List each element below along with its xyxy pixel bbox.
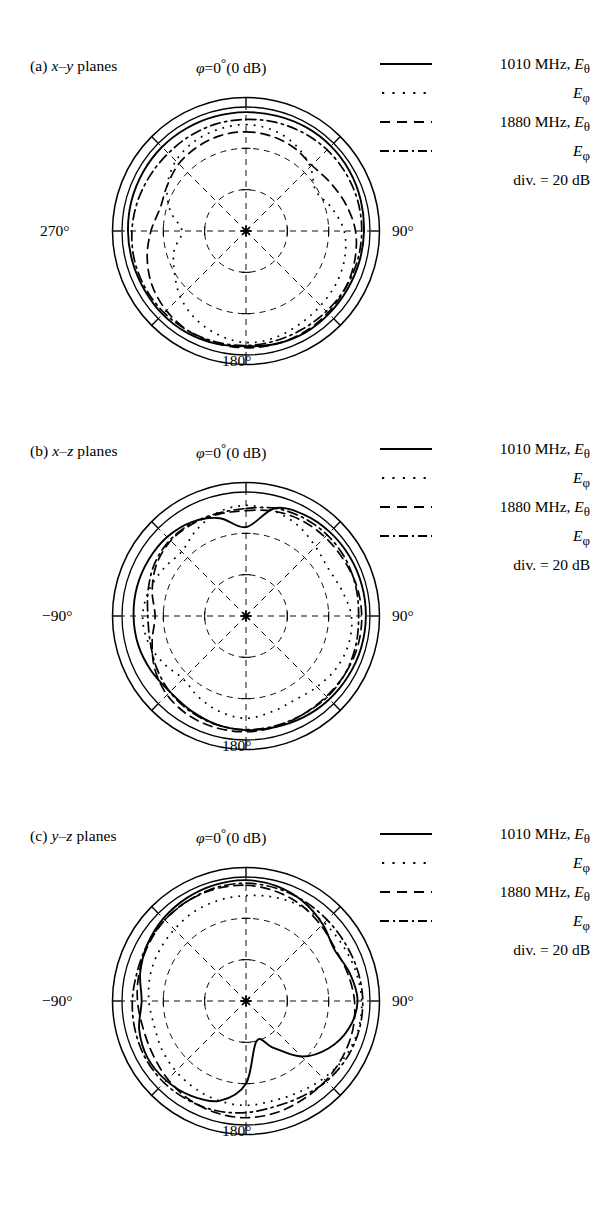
- legend-division-note: div. = 20 dB: [440, 938, 590, 962]
- legend-row-1: Eφ: [378, 466, 592, 490]
- legend-label-3: Eφ: [440, 139, 590, 163]
- outer-tick: [152, 907, 158, 913]
- series-dotted: [143, 505, 352, 718]
- legend-swatch-dotted: [378, 851, 434, 875]
- legend-swatch-solid: [378, 822, 434, 846]
- legend-row-3: Eφ: [378, 524, 592, 548]
- legend-label-1: Eφ: [440, 81, 590, 105]
- outer-tick: [334, 319, 340, 325]
- legend-swatch-dashed: [378, 495, 434, 519]
- legend-swatch-dashed: [378, 880, 434, 904]
- outer-tick: [334, 907, 340, 913]
- plot-geometry: [113, 98, 380, 365]
- legend-division-note: div. = 20 dB: [440, 168, 590, 192]
- legend-swatch-dotted: [378, 81, 434, 105]
- legend-label-3: Eφ: [440, 909, 590, 933]
- plot-geometry: [113, 868, 380, 1135]
- panel-yz-plane: (c) y–z planes φ=0°(0 dB) −90° 90° 180° …: [0, 770, 592, 1155]
- panel-xz-plane: (b) x–z planes φ=0°(0 dB) −90° 90° 180° …: [0, 385, 592, 770]
- legend-swatch-dotted: [378, 466, 434, 490]
- grid-spoke: [158, 528, 246, 616]
- grid-spoke: [158, 1001, 246, 1089]
- outer-tick: [152, 319, 158, 325]
- grid-spoke: [246, 143, 334, 231]
- legend-panel-b: 1010 MHz, Eθ Eφ 1880 MHz, Eθ Eφ div. = 2…: [378, 437, 592, 577]
- legend-label-1: Eφ: [440, 466, 590, 490]
- legend-label-3: Eφ: [440, 524, 590, 548]
- legend-label-0: 1010 MHz, Eθ: [440, 437, 590, 461]
- legend-row-2: 1880 MHz, Eθ: [378, 110, 592, 134]
- outer-tick: [152, 137, 158, 143]
- legend-swatch-dashed: [378, 110, 434, 134]
- legend-label-0: 1010 MHz, Eθ: [440, 52, 590, 76]
- legend-label-2: 1880 MHz, Eθ: [440, 880, 590, 904]
- outer-tick: [152, 522, 158, 528]
- legend-row-0: 1010 MHz, Eθ: [378, 822, 592, 846]
- outer-tick: [334, 137, 340, 143]
- outer-tick: [334, 522, 340, 528]
- legend-row-2: 1880 MHz, Eθ: [378, 495, 592, 519]
- grid-spoke: [158, 913, 246, 1001]
- legend-row-0: 1010 MHz, Eθ: [378, 437, 592, 461]
- legend-row-0: 1010 MHz, Eθ: [378, 52, 592, 76]
- grid-spoke: [246, 231, 334, 319]
- grid-spoke: [158, 616, 246, 704]
- legend-row-3: Eφ: [378, 139, 592, 163]
- legend-label-1: Eφ: [440, 851, 590, 875]
- outer-tick: [334, 704, 340, 710]
- legend-row-1: Eφ: [378, 81, 592, 105]
- grid-spoke: [158, 231, 246, 319]
- legend-panel-c: 1010 MHz, Eθ Eφ 1880 MHz, Eθ Eφ div. = 2…: [378, 822, 592, 962]
- outer-tick: [152, 704, 158, 710]
- grid-spoke: [246, 528, 334, 616]
- series-dotted: [149, 895, 362, 1105]
- legend-label-2: 1880 MHz, Eθ: [440, 110, 590, 134]
- legend-swatch-dashdot: [378, 524, 434, 548]
- panel-xy-plane: (a) x–y planes φ=0°(0 dB) 270° 90° 180° …: [0, 0, 592, 385]
- grid-spoke: [246, 616, 334, 704]
- legend-swatch-dashdot: [378, 909, 434, 933]
- legend-label-2: 1880 MHz, Eθ: [440, 495, 590, 519]
- outer-tick: [152, 1089, 158, 1095]
- legend-row-3: Eφ: [378, 909, 592, 933]
- grid-spoke: [246, 1001, 334, 1089]
- plot-geometry: [113, 483, 380, 750]
- outer-tick: [334, 1089, 340, 1095]
- legend-swatch-dashdot: [378, 139, 434, 163]
- legend-row-2: 1880 MHz, Eθ: [378, 880, 592, 904]
- grid-spoke: [246, 913, 334, 1001]
- grid-spoke: [158, 143, 246, 231]
- legend-swatch-solid: [378, 437, 434, 461]
- legend-division-note: div. = 20 dB: [440, 553, 590, 577]
- legend-label-0: 1010 MHz, Eθ: [440, 822, 590, 846]
- series-dashed: [147, 132, 356, 348]
- legend-row-1: Eφ: [378, 851, 592, 875]
- series-dotted: [167, 125, 346, 343]
- legend-panel-a: 1010 MHz, Eθ Eφ 1880 MHz, Eθ Eφ div. = 2…: [378, 52, 592, 192]
- legend-swatch-solid: [378, 52, 434, 76]
